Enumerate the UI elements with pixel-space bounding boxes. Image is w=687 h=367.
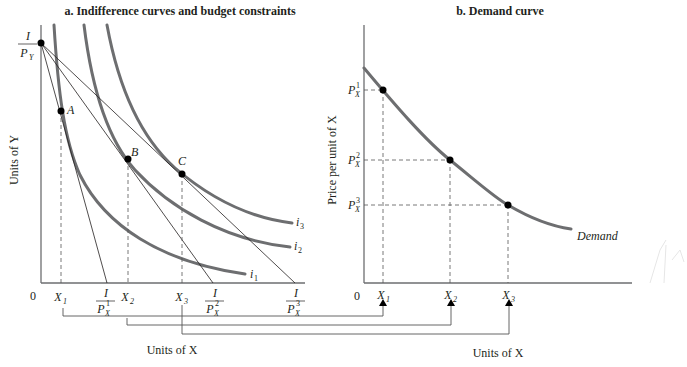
panel-b-y-axis-label: Price per unit of X <box>325 115 339 205</box>
panel-b-tick-x2: X 2 <box>443 288 457 304</box>
budget-line-3 <box>41 43 295 283</box>
panel-a-tick-x3: X 3 <box>174 290 188 306</box>
svg-text:X: X <box>104 309 111 318</box>
svg-text:X: X <box>443 288 452 302</box>
y-intercept-label: I P Y <box>18 29 37 62</box>
svg-text:X: X <box>354 205 361 214</box>
panel-a-tick-x1: X 1 <box>53 290 67 306</box>
svg-text:X: X <box>53 290 62 304</box>
price-tick-p3: P 3 X <box>347 196 361 214</box>
panel-b-tick-x1: X 1 <box>376 288 390 304</box>
svg-text:2: 2 <box>356 151 360 160</box>
svg-text:X: X <box>376 288 385 302</box>
svg-text:1: 1 <box>356 81 360 90</box>
svg-text:X: X <box>354 160 361 169</box>
svg-text:2: 2 <box>130 297 134 306</box>
y-intercept-point <box>38 40 45 47</box>
panel-a-title: a. Indifference curves and budget constr… <box>64 4 295 18</box>
panel-b-title: b. Demand curve <box>456 4 544 18</box>
demand-point-1 <box>380 87 387 94</box>
diagram-canvas: a. Indifference curves and budget constr… <box>0 0 687 367</box>
svg-text:X: X <box>354 90 361 99</box>
point-b-label: B <box>131 145 139 159</box>
panel-a-tick-x2: X 2 <box>120 290 134 306</box>
price-tick-p2: P 2 X <box>347 151 361 169</box>
panel-a-y-axis-label: Units of Y <box>7 135 21 186</box>
panel-a-x-axis-label: Units of X <box>147 343 198 357</box>
svg-text:2: 2 <box>453 295 457 304</box>
svg-text:1: 1 <box>386 295 390 304</box>
svg-text:Y: Y <box>29 53 35 62</box>
svg-text:1: 1 <box>63 297 67 306</box>
curve-label-i1: i 1 <box>250 267 258 283</box>
curve-label-i2: i 2 <box>294 239 302 255</box>
svg-text:1: 1 <box>254 274 258 283</box>
indifference-curve-i1 <box>54 25 245 274</box>
svg-text:X: X <box>501 288 510 302</box>
svg-text:i: i <box>250 267 253 281</box>
x-intercept-label-2: I P 2 X <box>205 286 224 318</box>
price-tick-p1: P 1 X <box>347 81 361 99</box>
budget-line-2 <box>41 43 213 283</box>
x-intercept-label-1: I P 1 X <box>96 286 115 318</box>
svg-text:X: X <box>174 290 183 304</box>
demand-point-3 <box>505 202 512 209</box>
stray-mark <box>650 240 684 283</box>
svg-text:i: i <box>296 215 299 229</box>
svg-text:i: i <box>294 239 297 253</box>
svg-text:I: I <box>293 286 299 300</box>
svg-text:X: X <box>120 290 129 304</box>
svg-text:P: P <box>205 302 214 316</box>
panel-b-x-axis-label: Units of X <box>473 346 524 360</box>
point-a <box>58 108 65 115</box>
svg-text:X: X <box>294 309 301 318</box>
svg-text:I: I <box>25 29 31 43</box>
point-c <box>179 171 186 178</box>
svg-text:3: 3 <box>510 295 515 304</box>
curve-label-i3: i 3 <box>296 215 304 231</box>
panel-b-origin: 0 <box>354 289 360 303</box>
svg-text:2: 2 <box>298 246 302 255</box>
svg-text:P: P <box>286 302 295 316</box>
svg-text:I: I <box>103 286 109 300</box>
svg-text:I: I <box>212 286 218 300</box>
svg-text:P: P <box>19 46 28 60</box>
panel-b-tick-x3: X 3 <box>501 288 515 304</box>
panel-a-origin: 0 <box>30 289 36 303</box>
svg-text:X: X <box>213 309 220 318</box>
svg-text:3: 3 <box>183 297 188 306</box>
svg-text:P: P <box>96 302 105 316</box>
demand-point-2 <box>447 157 454 164</box>
budget-line-1 <box>41 43 107 283</box>
point-c-label: C <box>178 154 187 168</box>
svg-text:3: 3 <box>356 196 360 205</box>
svg-text:2: 2 <box>215 299 219 308</box>
svg-text:3: 3 <box>296 299 300 308</box>
panel-a: a. Indifference curves and budget constr… <box>7 4 305 357</box>
svg-text:1: 1 <box>106 299 110 308</box>
x-intercept-label-3: I P 3 X <box>286 286 305 318</box>
connector-x1 <box>63 301 383 316</box>
demand-label: Demand <box>576 229 619 243</box>
panel-b: b. Demand curve Demand P 1 X P 2 X P 3 <box>325 4 684 360</box>
connector-x3 <box>182 301 509 334</box>
svg-text:3: 3 <box>300 222 304 231</box>
point-a-label: A <box>66 103 75 117</box>
